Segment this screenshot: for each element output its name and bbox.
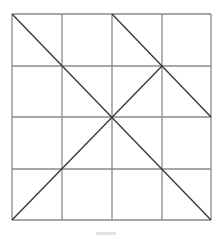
grid-diagram [0,0,221,235]
footer-bar [96,232,116,235]
anti-diagonal-lower [12,66,162,220]
